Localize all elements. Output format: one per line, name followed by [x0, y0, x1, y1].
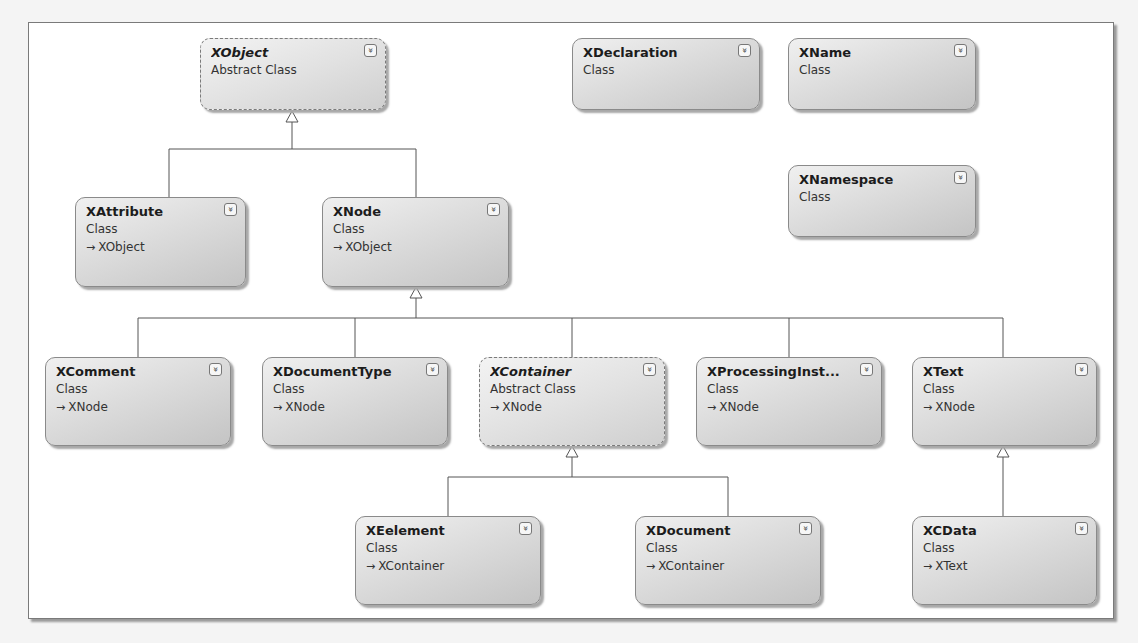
- class-shape-xnode[interactable]: XNodeClass→XObject»: [322, 197, 509, 287]
- expand-chevron-icon[interactable]: »: [643, 363, 656, 376]
- class-name: XText: [923, 363, 1088, 380]
- class-kind: Abstract Class: [490, 380, 656, 398]
- base-class-name: XContainer: [378, 559, 444, 573]
- class-kind: Class: [923, 539, 1088, 557]
- class-shape-xcomment[interactable]: XCommentClass→XNode»: [45, 357, 231, 446]
- inherits-arrow-icon: →: [56, 401, 65, 414]
- class-shape-xprocessinginstruction[interactable]: XProcessingInst...Class→XNode»: [696, 357, 882, 446]
- expand-chevron-icon[interactable]: »: [954, 171, 967, 184]
- expand-chevron-icon[interactable]: »: [364, 44, 377, 57]
- inherits-arrow-icon: →: [707, 401, 716, 414]
- class-kind: Class: [799, 188, 967, 206]
- base-class-name: XNode: [502, 400, 542, 414]
- inherits-arrow-icon: →: [366, 560, 375, 573]
- base-class: →XText: [923, 557, 1088, 576]
- class-shape-xnamespace[interactable]: XNamespaceClass»: [788, 165, 976, 237]
- class-shape-xobject[interactable]: XObjectAbstract Class»: [200, 38, 386, 110]
- class-kind: Class: [923, 380, 1088, 398]
- base-class: →XObject: [86, 238, 237, 257]
- class-kind: Class: [333, 220, 500, 238]
- base-class-name: XNode: [68, 400, 108, 414]
- base-class: →XNode: [273, 398, 439, 417]
- expand-chevron-icon[interactable]: »: [738, 44, 751, 57]
- class-kind: Class: [707, 380, 873, 398]
- class-shape-xcontainer[interactable]: XContainerAbstract Class→XNode»: [479, 357, 665, 446]
- inherits-arrow-icon: →: [86, 241, 95, 254]
- class-kind: Class: [366, 539, 532, 557]
- class-kind: Class: [86, 220, 237, 238]
- class-name: XCData: [923, 522, 1088, 539]
- expand-chevron-icon[interactable]: »: [1075, 363, 1088, 376]
- base-class-name: XNode: [719, 400, 759, 414]
- base-class: →XNode: [923, 398, 1088, 417]
- base-class: →XContainer: [646, 557, 812, 576]
- base-class-name: XText: [935, 559, 967, 573]
- class-name: XDeclaration: [583, 44, 751, 61]
- class-shape-xdocument[interactable]: XDocumentClass→XContainer»: [635, 516, 821, 605]
- class-shape-xdeclaration[interactable]: XDeclarationClass»: [572, 38, 760, 110]
- expand-chevron-icon[interactable]: »: [224, 203, 237, 216]
- base-class: →XNode: [490, 398, 656, 417]
- class-name: XNamespace: [799, 171, 967, 188]
- expand-chevron-icon[interactable]: »: [209, 363, 222, 376]
- expand-chevron-icon[interactable]: »: [487, 203, 500, 216]
- base-class-name: XObject: [98, 240, 145, 254]
- class-name: XProcessingInst...: [707, 363, 873, 380]
- class-name: XNode: [333, 203, 500, 220]
- class-kind: Class: [646, 539, 812, 557]
- base-class: →XObject: [333, 238, 500, 257]
- base-class-name: XObject: [345, 240, 392, 254]
- expand-chevron-icon[interactable]: »: [426, 363, 439, 376]
- class-shape-xattribute[interactable]: XAttributeClass→XObject»: [75, 197, 246, 287]
- base-class: →XNode: [707, 398, 873, 417]
- expand-chevron-icon[interactable]: »: [519, 522, 532, 535]
- class-shape-xname[interactable]: XNameClass»: [788, 38, 976, 110]
- base-class: →XNode: [56, 398, 222, 417]
- class-name: XDocumentType: [273, 363, 439, 380]
- inherits-arrow-icon: →: [923, 401, 932, 414]
- class-shape-xtext[interactable]: XTextClass→XNode»: [912, 357, 1097, 446]
- inherits-arrow-icon: →: [490, 401, 499, 414]
- expand-chevron-icon[interactable]: »: [1075, 522, 1088, 535]
- expand-chevron-icon[interactable]: »: [799, 522, 812, 535]
- expand-chevron-icon[interactable]: »: [954, 44, 967, 57]
- class-name: XName: [799, 44, 967, 61]
- class-name: XObject: [211, 44, 377, 61]
- class-kind: Class: [56, 380, 222, 398]
- class-name: XEelement: [366, 522, 532, 539]
- class-kind: Class: [583, 61, 751, 79]
- class-kind: Abstract Class: [211, 61, 377, 79]
- base-class: →XContainer: [366, 557, 532, 576]
- inherits-arrow-icon: →: [333, 241, 342, 254]
- base-class-name: XContainer: [658, 559, 724, 573]
- inherits-arrow-icon: →: [923, 560, 932, 573]
- class-name: XContainer: [490, 363, 656, 380]
- class-kind: Class: [799, 61, 967, 79]
- inherits-arrow-icon: →: [646, 560, 655, 573]
- class-name: XComment: [56, 363, 222, 380]
- class-shape-xcdata[interactable]: XCDataClass→XText»: [912, 516, 1097, 605]
- class-shape-xdocumenttype[interactable]: XDocumentTypeClass→XNode»: [262, 357, 448, 446]
- class-name: XAttribute: [86, 203, 237, 220]
- class-shape-xeelement[interactable]: XEelementClass→XContainer»: [355, 516, 541, 605]
- class-name: XDocument: [646, 522, 812, 539]
- base-class-name: XNode: [285, 400, 325, 414]
- inherits-arrow-icon: →: [273, 401, 282, 414]
- expand-chevron-icon[interactable]: »: [860, 363, 873, 376]
- base-class-name: XNode: [935, 400, 975, 414]
- class-kind: Class: [273, 380, 439, 398]
